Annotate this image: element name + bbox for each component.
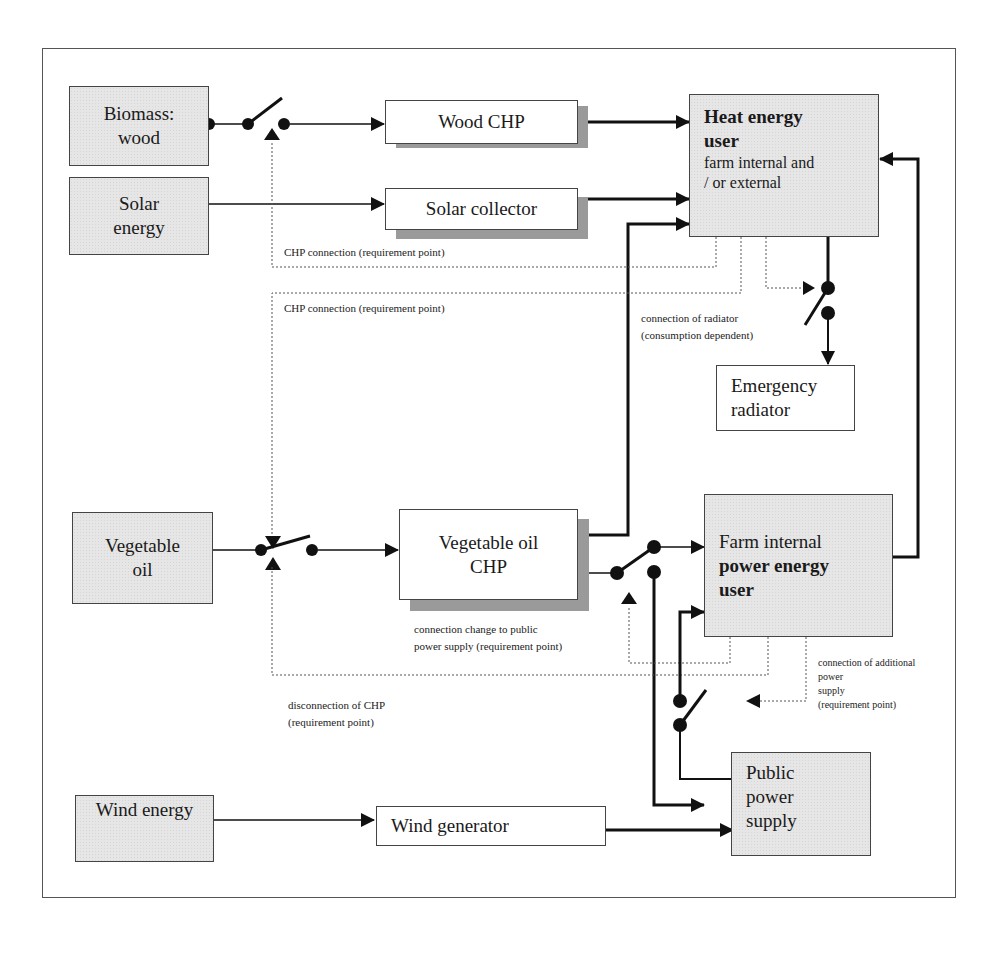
label: Emergency [731,374,817,398]
label: Wind generator [391,814,509,838]
label: user [719,578,754,602]
label: oil [132,558,152,582]
converter-wind-generator[interactable]: Wind generator [376,806,606,846]
converter-vegetable-oil-chp[interactable]: Vegetable oil CHP [399,509,578,600]
label: Biomass: [104,102,175,126]
subtitle: / or external [704,173,781,193]
disconnection-note-2: (requirement point) [288,715,374,729]
converter-solar-collector[interactable]: Solar collector [385,188,578,230]
label: energy [113,216,164,240]
additional-supply-note-2: power [818,670,843,684]
label: CHP [470,555,507,579]
disconnection-note-1: disconnection of CHP [288,698,385,712]
source-solar-energy[interactable]: Solar energy [69,177,209,255]
additional-power-switch[interactable] [673,612,733,779]
label: radiator [731,398,790,422]
label: Wind energy [96,798,194,822]
label: Vegetable [105,534,180,558]
label: Vegetable oil [439,531,539,555]
radiator-note-2: (consumption dependent) [641,328,753,342]
biomass-switch[interactable] [203,98,290,140]
converter-wood-chp[interactable]: Wood CHP [385,100,578,144]
chp-connection-note-2: CHP connection (requirement point) [284,301,445,315]
vegetable-oil-switch[interactable] [255,536,318,570]
label: Solar [119,192,159,216]
emergency-radiator[interactable]: Emergency radiator [716,365,855,431]
source-wind-energy[interactable]: Wind energy [75,795,214,862]
additional-supply-note-1: connection of additional [818,656,915,670]
label: power [746,785,793,809]
label: Solar collector [426,197,537,221]
chp-connection-note-1: CHP connection (requirement point) [284,245,445,259]
label: Farm internal [719,530,822,554]
label: supply [746,809,797,833]
additional-supply-note-4: (requirement point) [818,698,896,712]
title: user [704,129,739,153]
title: Heat energy [704,105,803,129]
label: power energy [719,554,829,578]
public-change-note-1: connection change to public [414,622,538,636]
heat-energy-user[interactable]: Heat energy user farm internal and / or … [689,94,879,237]
farm-internal-power-energy-user[interactable]: Farm internal power energy user [704,494,893,637]
additional-supply-note-3: supply [818,684,845,698]
label: Wood CHP [438,110,525,134]
energy-flow-diagram: Biomass: wood Solar energy Vegetable oil… [0,0,994,971]
source-biomass-wood[interactable]: Biomass: wood [69,86,209,166]
label: wood [118,126,160,150]
label: Public [746,761,795,785]
radiator-note-1: connection of radiator [641,311,738,325]
public-power-supply[interactable]: Public power supply [731,752,871,856]
radiator-switch[interactable] [805,237,835,325]
source-vegetable-oil[interactable]: Vegetable oil [72,512,213,604]
public-change-note-2: power supply (requirement point) [414,639,562,653]
subtitle: farm internal and [704,153,814,173]
